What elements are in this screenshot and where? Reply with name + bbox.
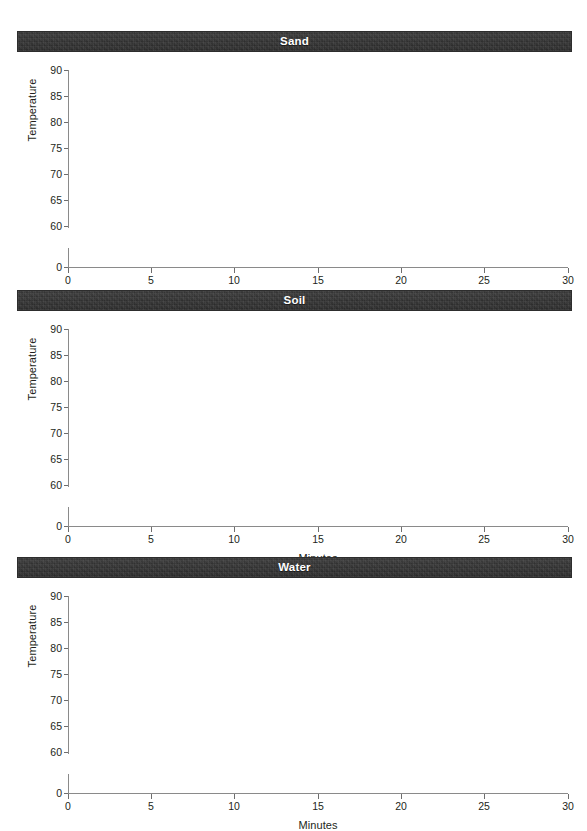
- x-tick-label: 0: [53, 275, 83, 286]
- x-tick-mark: [68, 794, 69, 799]
- y-tick-labels-water: 90 85 80 75 70 65 60 0: [34, 578, 62, 793]
- y-tick-label: 60: [36, 221, 62, 232]
- top-partial-text: [150, 0, 440, 6]
- x-tick-label: 10: [219, 801, 249, 812]
- x-tick-label: 25: [469, 275, 499, 286]
- y-tick-label: 60: [36, 480, 62, 491]
- x-tick-mark: [401, 794, 402, 799]
- x-tick-label: 5: [136, 801, 166, 812]
- x-tick-label: 0: [53, 534, 83, 545]
- x-tick-mark: [151, 794, 152, 799]
- x-tick-label: 30: [553, 534, 583, 545]
- y-axis-line-lower: [68, 507, 69, 526]
- x-tick-label: 30: [553, 801, 583, 812]
- x-tick-label: 30: [553, 275, 583, 286]
- plot-water: Temperature 90 85 80 75 70 65 60 0: [0, 578, 587, 793]
- plot-area-sand: [69, 70, 568, 267]
- x-tick-label: 0: [53, 801, 83, 812]
- x-tick-mark: [401, 527, 402, 532]
- panel-title-sand: Sand: [280, 36, 309, 48]
- y-tick-label: 75: [36, 402, 62, 413]
- y-tick-label: 80: [36, 117, 62, 128]
- plot-soil: Temperature 90 85 80 75 70 65 60 0: [0, 311, 587, 526]
- x-tick-mark: [318, 268, 319, 273]
- panel-title-water: Water: [278, 562, 311, 574]
- y-tick-label: 85: [36, 617, 62, 628]
- x-tick-mark: [68, 268, 69, 273]
- y-axis-line-lower: [68, 248, 69, 267]
- x-tick-label: 20: [386, 275, 416, 286]
- y-tick-label: 80: [36, 643, 62, 654]
- panel-header-sand: Sand: [17, 31, 572, 52]
- x-tick-mark: [568, 268, 569, 273]
- y-tick-label: 75: [36, 669, 62, 680]
- y-tick-label: 65: [36, 721, 62, 732]
- plot-sand: Temperature 90 85 80 75 70 65 60 0: [0, 52, 587, 267]
- x-tick-mark: [151, 268, 152, 273]
- y-tick-label: 60: [36, 747, 62, 758]
- y-tick-label: 65: [36, 454, 62, 465]
- y-tick-labels-sand: 90 85 80 75 70 65 60 0: [34, 52, 62, 267]
- y-axis-line: [68, 70, 69, 228]
- x-tick-label: 25: [469, 534, 499, 545]
- x-tick-label: 15: [303, 534, 333, 545]
- panel-header-water: Water: [17, 557, 572, 578]
- y-axis-line-lower: [68, 774, 69, 793]
- x-tick-mark: [484, 527, 485, 532]
- x-tick-label: 20: [386, 534, 416, 545]
- y-tick-label: 90: [36, 65, 62, 76]
- y-tick-label: 85: [36, 350, 62, 361]
- x-axis-label-water: Minutes: [68, 819, 568, 831]
- y-tick-label: 85: [36, 91, 62, 102]
- y-tick-label: 90: [36, 324, 62, 335]
- y-tick-label: 70: [36, 695, 62, 706]
- x-tick-mark: [68, 527, 69, 532]
- y-tick-label: 80: [36, 376, 62, 387]
- x-tick-mark: [401, 268, 402, 273]
- y-tick-label: 70: [36, 428, 62, 439]
- x-tick-mark: [234, 268, 235, 273]
- y-axis-line: [68, 596, 69, 754]
- x-tick-mark: [318, 527, 319, 532]
- x-tick-label: 5: [136, 534, 166, 545]
- y-tick-label: 0: [36, 788, 62, 799]
- y-tick-label: 90: [36, 591, 62, 602]
- plot-area-soil: [69, 329, 568, 526]
- y-tick-label: 65: [36, 195, 62, 206]
- x-tick-mark: [484, 268, 485, 273]
- panel-title-soil: Soil: [284, 295, 306, 307]
- plot-area-water: [69, 596, 568, 793]
- y-tick-label: 75: [36, 143, 62, 154]
- x-tick-mark: [234, 527, 235, 532]
- x-tick-label: 15: [303, 275, 333, 286]
- x-tick-label: 20: [386, 801, 416, 812]
- x-tick-mark: [234, 794, 235, 799]
- panel-header-soil: Soil: [17, 290, 572, 311]
- y-tick-label: 70: [36, 169, 62, 180]
- y-tick-label: 0: [36, 521, 62, 532]
- y-axis-line: [68, 329, 69, 487]
- x-tick-label: 15: [303, 801, 333, 812]
- x-tick-mark: [151, 527, 152, 532]
- x-tick-label: 10: [219, 534, 249, 545]
- x-tick-label: 25: [469, 801, 499, 812]
- x-tick-mark: [568, 527, 569, 532]
- y-tick-labels-soil: 90 85 80 75 70 65 60 0: [34, 311, 62, 526]
- x-tick-label: 5: [136, 275, 166, 286]
- y-tick-label: 0: [36, 262, 62, 273]
- x-tick-mark: [318, 794, 319, 799]
- x-tick-mark: [484, 794, 485, 799]
- x-tick-mark: [568, 794, 569, 799]
- x-tick-label: 10: [219, 275, 249, 286]
